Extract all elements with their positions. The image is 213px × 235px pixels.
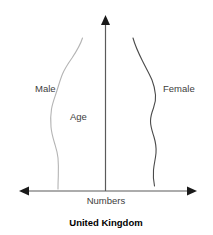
age-axis-arrow-icon (101, 15, 110, 25)
axis-label-numbers: Numbers (87, 195, 126, 206)
numbers-axis-right-arrow-icon (187, 187, 197, 196)
series-label-male: Male (35, 83, 56, 94)
population-pyramid-figure: Male Age Female Numbers United Kingdom (0, 0, 213, 235)
axis-label-age: Age (70, 111, 87, 122)
numbers-axis-left-arrow-icon (19, 187, 29, 196)
series-label-female: Female (163, 83, 195, 94)
diagram-canvas: Male Age Female Numbers United Kingdom (0, 0, 213, 235)
female-population-curve (133, 38, 156, 186)
figure-caption: United Kingdom (69, 217, 142, 228)
